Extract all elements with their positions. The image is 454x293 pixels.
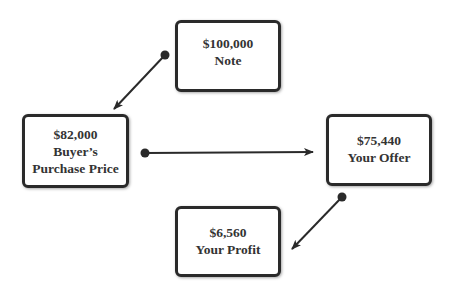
diagram-canvas: $100,000 Note $82,000 Buyer’s Purchase P… xyxy=(0,0,454,293)
note-box: $100,000 Note xyxy=(175,20,281,92)
note-amount: $100,000 xyxy=(203,35,254,52)
arrow-note-to-purchase-price xyxy=(114,51,170,110)
profit-label: Your Profit xyxy=(195,241,260,258)
arrow-offer-to-profit xyxy=(292,193,347,250)
offer-amount: $75,440 xyxy=(357,132,401,149)
purchase-price-amount: $82,000 xyxy=(54,126,98,143)
arrow-purchase-price-to-offer xyxy=(141,149,314,158)
note-label: Note xyxy=(215,52,242,69)
profit-amount: $6,560 xyxy=(209,224,246,241)
offer-box: $75,440 Your Offer xyxy=(326,114,432,186)
profit-box: $6,560 Your Profit xyxy=(175,206,281,277)
offer-label: Your Offer xyxy=(347,149,410,166)
purchase-price-box: $82,000 Buyer’s Purchase Price xyxy=(22,114,129,188)
purchase-price-label-line2: Purchase Price xyxy=(32,160,118,177)
purchase-price-label-line1: Buyer’s xyxy=(53,143,98,160)
